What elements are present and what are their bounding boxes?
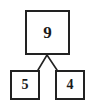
part-left-value: 5 [22, 78, 29, 92]
number-bond-diagram: 9 5 4 [0, 0, 92, 112]
connector-line-left [38, 55, 47, 70]
part-box-right: 4 [55, 70, 85, 100]
whole-value: 9 [43, 24, 52, 41]
connector-line-right [47, 55, 57, 70]
whole-box: 9 [25, 10, 70, 55]
part-right-value: 4 [67, 78, 74, 92]
part-box-left: 5 [10, 70, 40, 100]
